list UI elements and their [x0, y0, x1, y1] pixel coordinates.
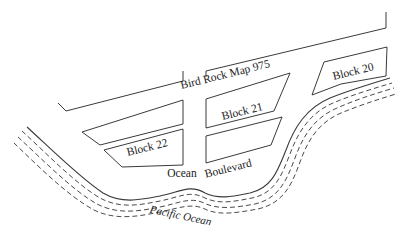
label-street-ocean: Ocean: [167, 167, 197, 179]
map-title: Bird Rock Map 975: [179, 57, 271, 92]
wave-line-1: [22, 83, 392, 205]
label-pacific-ocean: Pacific Ocean: [148, 203, 213, 228]
label-street-boulevard: Boulevard: [203, 156, 253, 179]
lot-lower-middle: [206, 117, 282, 163]
street-boundary-upper-left: [58, 71, 183, 111]
coastline: [27, 78, 390, 200]
lot-upper-left: [82, 100, 183, 145]
bird-rock-map: Bird Rock Map 975 Block 20 Block 21 Bloc…: [0, 0, 401, 236]
label-block-22: Block 22: [125, 136, 169, 158]
